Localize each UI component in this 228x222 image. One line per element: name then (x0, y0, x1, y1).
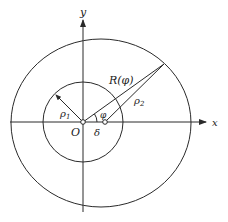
diagram-canvas: y x O δ φ R(φ) ρ1 ρ2 (0, 0, 228, 222)
phi-angle-arc (95, 114, 98, 122)
offset-center-point (103, 120, 108, 125)
origin-label: O (71, 126, 80, 139)
R-phi-segment (83, 64, 164, 122)
y-axis-label: y (79, 6, 87, 19)
delta-label: δ (94, 127, 100, 138)
phi-label: φ (100, 110, 107, 120)
rho2-segment (105, 64, 164, 122)
R-phi-label: R(φ) (108, 74, 134, 87)
rho2-label: ρ2 (133, 95, 145, 108)
rho1-label: ρ1 (59, 108, 70, 121)
diagram-figure: y x O δ φ R(φ) ρ1 ρ2 (0, 0, 228, 222)
origin-point (81, 120, 86, 125)
x-axis-label: x (212, 117, 218, 128)
